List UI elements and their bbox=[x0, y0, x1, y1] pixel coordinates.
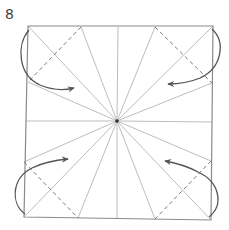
crease-line bbox=[117, 27, 118, 121]
fold-arrow-icon-bottom-right bbox=[165, 161, 218, 217]
fold-arrow-icon-bottom-left bbox=[15, 159, 68, 214]
valley-fold-line bbox=[24, 162, 78, 218]
crease-line bbox=[117, 121, 212, 122]
crease-line bbox=[28, 26, 117, 121]
crease-line bbox=[117, 26, 213, 121]
crease-line bbox=[24, 121, 117, 217]
center-point bbox=[115, 119, 119, 123]
crease-line bbox=[117, 83, 212, 121]
origami-diagram bbox=[0, 0, 229, 230]
crease-line bbox=[81, 27, 117, 121]
crease-line bbox=[117, 121, 211, 220]
crease-line bbox=[117, 27, 155, 121]
crease-lines bbox=[24, 26, 213, 220]
crease-line bbox=[117, 121, 211, 161]
fold-arrow-icon-top-left bbox=[21, 30, 74, 90]
crease-line bbox=[117, 121, 155, 219]
